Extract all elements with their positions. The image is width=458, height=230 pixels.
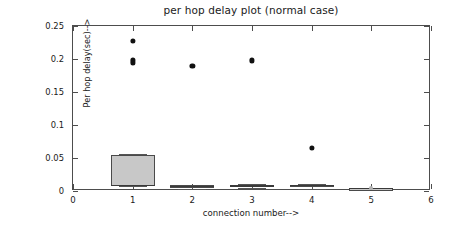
y-tick-label: 0 xyxy=(59,186,64,196)
box-plot-median xyxy=(230,185,274,186)
box-whisker-cap-lower xyxy=(178,189,206,190)
plot-area: Per hop delay(sec)--> connection number-… xyxy=(72,25,430,190)
box-plot-median xyxy=(111,185,155,186)
x-tick-mark xyxy=(312,26,313,31)
box-plot-box xyxy=(111,155,155,186)
figure: per hop delay plot (normal case) Per hop… xyxy=(0,0,458,230)
y-tick-label: 0.15 xyxy=(45,87,64,97)
chart-title: per hop delay plot (normal case) xyxy=(72,4,430,16)
x-tick-mark xyxy=(73,26,74,31)
x-tick-label: 5 xyxy=(369,195,374,205)
y-tick-label: 0.2 xyxy=(51,54,64,64)
box-plot-median xyxy=(170,186,214,187)
x-tick-mark xyxy=(73,184,74,189)
box-plot-outlier xyxy=(190,63,195,68)
box-plot-outlier xyxy=(130,60,135,65)
x-tick-label: 4 xyxy=(309,195,314,205)
x-tick-mark xyxy=(192,26,193,31)
x-axis-label: connection number--> xyxy=(73,208,429,218)
y-tick-mark xyxy=(424,158,429,159)
y-tick-mark xyxy=(73,59,78,60)
y-tick-mark xyxy=(73,92,78,93)
x-tick-mark xyxy=(133,26,134,31)
x-tick-mark xyxy=(431,26,432,31)
box-whisker-cap-lower xyxy=(119,186,147,187)
y-tick-mark xyxy=(73,158,78,159)
y-tick-label: 0.05 xyxy=(45,153,64,163)
y-tick-mark xyxy=(424,191,429,192)
x-tick-label: 3 xyxy=(249,195,254,205)
box-plot-outlier xyxy=(130,39,135,44)
x-tick-mark xyxy=(431,184,432,189)
box-whisker-cap-lower xyxy=(238,188,266,189)
x-tick-label: 1 xyxy=(130,195,135,205)
y-tick-label: 0.1 xyxy=(51,120,64,130)
box-plot-outlier xyxy=(309,146,314,151)
y-tick-mark xyxy=(424,26,429,27)
box-plot-median xyxy=(290,185,334,186)
y-tick-mark xyxy=(424,59,429,60)
box-plot-outlier xyxy=(249,58,254,63)
y-tick-mark xyxy=(424,125,429,126)
y-tick-mark xyxy=(424,92,429,93)
x-tick-label: 6 xyxy=(428,195,433,205)
x-tick-mark xyxy=(252,26,253,31)
box-whisker-cap-lower xyxy=(298,189,326,190)
y-tick-label: 0.25 xyxy=(45,21,64,31)
x-tick-mark xyxy=(371,26,372,31)
x-tick-label: 2 xyxy=(190,195,195,205)
box-plot-outlier xyxy=(369,186,373,190)
y-tick-mark xyxy=(73,191,78,192)
y-tick-mark xyxy=(73,125,78,126)
x-tick-label: 0 xyxy=(70,195,75,205)
plot-inner xyxy=(73,26,429,189)
